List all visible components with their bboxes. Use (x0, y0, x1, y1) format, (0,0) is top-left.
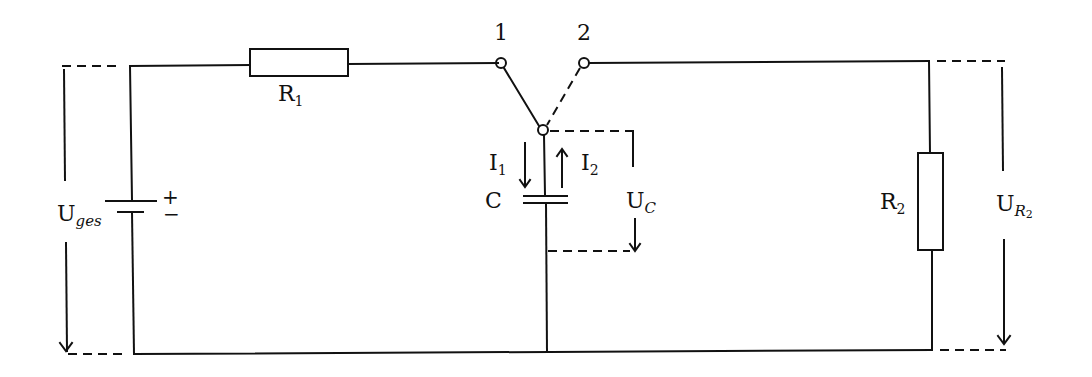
ur2-label-sub: R (1015, 202, 1026, 220)
capacitor-label: C (485, 190, 502, 212)
i1-label-main: I (489, 150, 498, 175)
switch-pos-2-label: 2 (577, 22, 591, 44)
wire-top-left (130, 63, 498, 66)
r1-label-sub: 1 (295, 93, 304, 109)
wire-left (130, 66, 134, 354)
ur2-label-main: U (996, 191, 1015, 216)
i1-label: I1 (489, 152, 507, 177)
uc-label-main: U (626, 188, 645, 213)
resistor-r2 (918, 153, 943, 250)
battery-symbol (106, 201, 156, 212)
wire-bottom (134, 350, 932, 354)
wire-top-right (589, 61, 929, 63)
r1-label: R1 (278, 83, 304, 108)
i2-label: I2 (581, 152, 599, 177)
i2-label-sub: 2 (590, 162, 599, 178)
uges-label: Uges (57, 203, 102, 229)
uc-label-sub: C (645, 199, 656, 217)
r2-label: R2 (880, 191, 906, 216)
r2-label-sub: 2 (897, 201, 906, 217)
uc-label: UC (626, 190, 656, 216)
current-arrow-i1 (520, 143, 530, 187)
uges-label-sub: ges (76, 212, 102, 230)
ur2-label-subsub: 2 (1026, 208, 1033, 221)
battery-minus-label: − (163, 204, 180, 224)
resistor-r1 (250, 49, 348, 76)
i1-label-sub: 1 (498, 162, 507, 178)
ur2-label: UR2 (996, 193, 1033, 220)
switch-pos-1-label: 1 (494, 22, 508, 44)
switch (496, 58, 589, 135)
r2-branch (929, 61, 932, 350)
uges-label-main: U (57, 201, 76, 226)
r1-label-main: R (278, 81, 295, 106)
r2-label-main: R (880, 189, 897, 214)
current-arrow-i2 (557, 149, 567, 187)
i2-label-main: I (581, 150, 590, 175)
capacitor-branch (524, 135, 567, 352)
